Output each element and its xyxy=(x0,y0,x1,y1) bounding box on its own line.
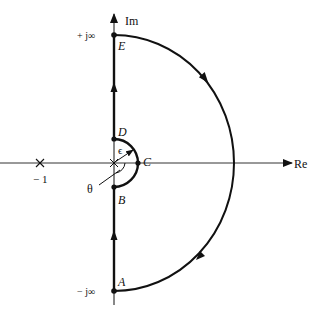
label-c: C xyxy=(143,155,152,169)
plus-j-infinity-label: + j∞ xyxy=(77,30,95,41)
minus-j-infinity-label: − j∞ xyxy=(77,286,95,297)
point-e xyxy=(111,32,117,38)
imag-axis-label: Im xyxy=(125,14,139,28)
direction-arrow-ab-icon xyxy=(111,230,118,240)
point-b xyxy=(111,184,116,189)
point-c xyxy=(135,160,140,165)
point-a xyxy=(111,288,117,294)
label-d: D xyxy=(117,125,127,139)
minus-one-label: − 1 xyxy=(33,173,47,185)
theta-label: θ xyxy=(87,182,93,196)
label-e: E xyxy=(117,39,126,53)
label-a: A xyxy=(117,275,126,289)
theta-leader-line xyxy=(99,170,120,185)
direction-arrow-de-icon xyxy=(111,82,118,92)
real-axis-label: Re xyxy=(294,157,307,171)
epsilon-label: ϵ xyxy=(118,144,123,156)
nyquist-contour-diagram: Im Re + j∞ − j∞ − 1 E D C B A ϵ θ xyxy=(0,0,319,314)
label-b: B xyxy=(118,193,126,207)
point-d xyxy=(111,136,116,141)
